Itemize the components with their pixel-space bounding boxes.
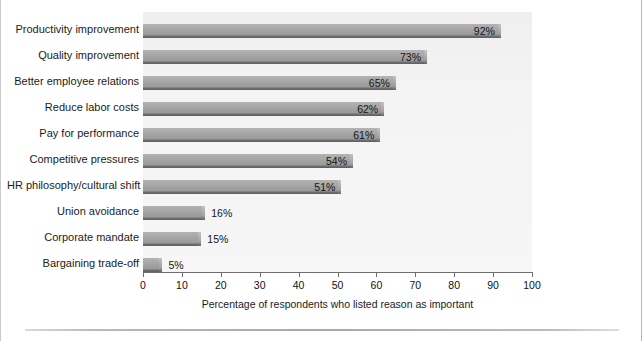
bar-value-label: 51%	[143, 180, 335, 194]
bar-row[interactable]: 61%	[143, 128, 532, 142]
category-label: Bargaining trade-off	[7, 257, 139, 269]
bar-value-label: 65%	[143, 76, 390, 90]
x-axis-tick	[143, 272, 144, 277]
chart-page: Productivity improvementQuality improvem…	[0, 0, 642, 341]
bottom-divider-rule	[25, 329, 619, 331]
category-label: Competitive pressures	[7, 153, 139, 165]
x-axis-tick-label: 80	[439, 279, 469, 291]
x-axis-tick	[532, 272, 533, 277]
bar-end-cap	[198, 232, 201, 246]
bar-value-label: 61%	[143, 128, 374, 142]
x-axis-tick-label: 70	[400, 279, 430, 291]
bar-row[interactable]: 65%	[143, 76, 532, 90]
bar-row[interactable]: 73%	[143, 50, 532, 64]
plot-area: 92%73%65%62%61%54%51%16%15%5%	[143, 12, 532, 272]
x-axis-tick	[376, 272, 377, 277]
x-axis-tick	[415, 272, 416, 277]
x-axis-tick-label: 100	[517, 279, 547, 291]
x-axis-tick-label: 20	[206, 279, 236, 291]
x-axis-tick	[260, 272, 261, 277]
bar-value-label: 54%	[143, 154, 347, 168]
bar-end-cap	[202, 206, 205, 220]
bar-row[interactable]: 54%	[143, 154, 532, 168]
bar[interactable]	[143, 206, 205, 220]
category-label: HR philosophy/cultural shift	[7, 179, 139, 191]
bar-end-cap	[350, 154, 353, 168]
bar-row[interactable]: 15%	[143, 232, 532, 246]
bar-value-label: 16%	[211, 206, 232, 220]
bar-value-label: 5%	[168, 258, 183, 272]
bar-end-cap	[338, 180, 341, 194]
bar-row[interactable]: 5%	[143, 258, 532, 272]
bar-end-cap	[424, 50, 427, 64]
bar-end-cap	[381, 102, 384, 116]
bar-value-label: 62%	[143, 102, 378, 116]
horizontal-bar-chart: Productivity improvementQuality improvem…	[1, 0, 642, 341]
category-label: Reduce labor costs	[7, 101, 139, 113]
bar-value-label: 92%	[143, 24, 495, 38]
bar-value-label: 73%	[143, 50, 421, 64]
category-label: Corporate mandate	[7, 231, 139, 243]
bar-value-label: 15%	[207, 232, 228, 246]
category-label: Productivity improvement	[7, 23, 139, 35]
bar-end-cap	[159, 258, 162, 272]
category-label: Pay for performance	[7, 127, 139, 139]
x-axis-tick-label: 40	[284, 279, 314, 291]
category-label: Better employee relations	[7, 75, 139, 87]
x-axis-tick	[454, 272, 455, 277]
x-axis-tick-label: 30	[245, 279, 275, 291]
bar-row[interactable]: 92%	[143, 24, 532, 38]
x-axis-tick-label: 90	[478, 279, 508, 291]
category-label: Quality improvement	[7, 49, 139, 61]
x-axis-tick	[338, 272, 339, 277]
x-axis-label: Percentage of respondents who listed rea…	[143, 298, 532, 310]
category-label-column: Productivity improvementQuality improvem…	[1, 12, 139, 272]
x-axis-tick-label: 50	[323, 279, 353, 291]
bar-row[interactable]: 62%	[143, 102, 532, 116]
x-axis-tick-label: 10	[167, 279, 197, 291]
bar-end-cap	[393, 76, 396, 90]
bar-end-cap	[377, 128, 380, 142]
bar-row[interactable]: 51%	[143, 180, 532, 194]
x-axis-tick	[182, 272, 183, 277]
x-axis-tick-label: 0	[128, 279, 158, 291]
bar[interactable]	[143, 232, 201, 246]
bar-end-cap	[498, 24, 501, 38]
x-axis-tick	[493, 272, 494, 277]
x-axis-tick	[221, 272, 222, 277]
bar-row[interactable]: 16%	[143, 206, 532, 220]
x-axis-tick	[299, 272, 300, 277]
category-label: Union avoidance	[7, 205, 139, 217]
x-axis-tick-label: 60	[361, 279, 391, 291]
